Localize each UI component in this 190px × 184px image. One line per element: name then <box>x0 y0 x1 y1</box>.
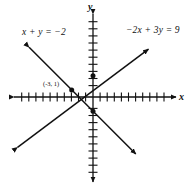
intersection-point-label: (-3, 1) <box>43 80 59 87</box>
y-axis <box>89 14 98 182</box>
line-x-plus-y-equals-neg2 <box>29 47 136 154</box>
graph-figure: x + y = −2 −2x + 3y = 9 (-3, 1) x y <box>0 0 190 184</box>
x-axis-label: x <box>179 91 184 102</box>
equation-label-line1: x + y = −2 <box>22 27 66 37</box>
x-axis <box>14 93 176 102</box>
equation-label-line2: −2x + 3y = 9 <box>126 25 180 35</box>
intersection-point-marker <box>69 87 74 92</box>
y-intercept-marker-neg2 <box>91 109 96 114</box>
y-axis-label: y <box>88 1 92 12</box>
y-intercept-marker-3 <box>91 73 96 78</box>
